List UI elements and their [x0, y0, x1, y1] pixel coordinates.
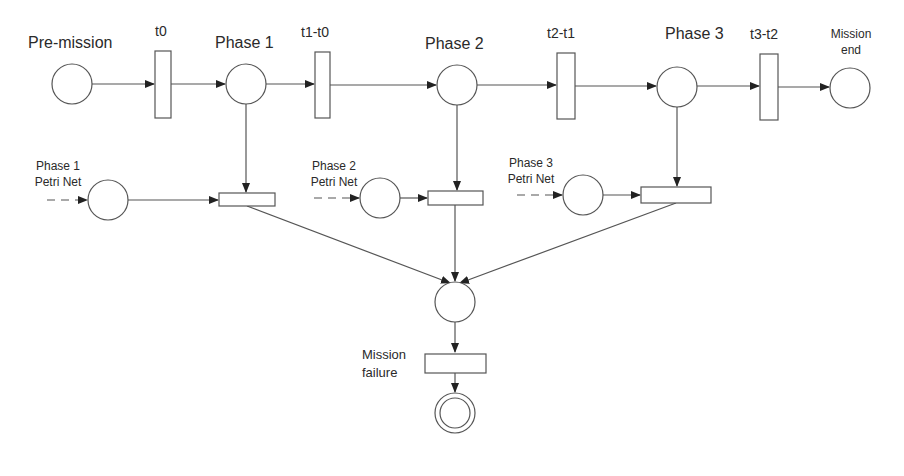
label-mission-end: Mission end [826, 26, 876, 58]
petri-net-canvas [0, 0, 904, 476]
label-phase-1: Phase 1 [215, 34, 274, 52]
place-phase-3 [657, 67, 697, 107]
label-t0: t0 [155, 23, 167, 39]
label-phase-1-petri-net-line1: Phase 1 [30, 158, 86, 174]
transition-phase-1-failure [219, 193, 275, 206]
label-phase-2-petri-net-line1: Phase 2 [306, 158, 362, 174]
label-phase-3-petri-net-line2: Petri Net [503, 171, 559, 187]
label-mission-failure-line1: Mission [362, 346, 406, 364]
place-mission-failure-final-inner [440, 398, 470, 428]
label-phase-2: Phase 2 [425, 35, 484, 53]
label-mission-failure-line2: failure [362, 364, 406, 382]
label-phase-1-petri-net: Phase 1 Petri Net [30, 158, 86, 190]
label-mission-failure: Mission failure [362, 346, 406, 382]
label-phase-2-petri-net: Phase 2 Petri Net [306, 158, 362, 190]
label-phase-2-petri-net-line2: Petri Net [306, 174, 362, 190]
transition-t1-t0 [315, 52, 330, 118]
place-phase-1-petri-net [88, 180, 128, 220]
transition-t3-t2 [760, 54, 778, 120]
label-t1-t0: t1-t0 [301, 24, 329, 40]
transition-phase-3-failure [641, 187, 711, 203]
label-pre-mission: Pre-mission [28, 34, 112, 52]
place-phase-3-petri-net [563, 175, 603, 215]
transition-t2-t1 [557, 53, 575, 119]
label-mission-end-line2: end [826, 42, 876, 58]
place-pre-mission [52, 64, 92, 104]
place-phase-1 [226, 64, 266, 104]
label-phase-3: Phase 3 [665, 25, 724, 43]
arc-phase1trans-failure [247, 206, 450, 283]
place-mission-end [830, 68, 870, 108]
transition-t0 [155, 51, 171, 118]
arc-phase3trans-failure [460, 203, 676, 283]
transition-mission-failure [425, 354, 486, 373]
label-phase-3-petri-net-line1: Phase 3 [503, 155, 559, 171]
place-failure [435, 282, 475, 322]
label-t2-t1: t2-t1 [547, 25, 575, 41]
label-mission-end-line1: Mission [826, 26, 876, 42]
transition-phase-2-failure [428, 191, 483, 205]
label-phase-1-petri-net-line2: Petri Net [30, 174, 86, 190]
place-phase-2 [437, 65, 477, 105]
label-phase-3-petri-net: Phase 3 Petri Net [503, 155, 559, 187]
place-phase-2-petri-net [360, 178, 400, 218]
label-t3-t2: t3-t2 [750, 26, 778, 42]
